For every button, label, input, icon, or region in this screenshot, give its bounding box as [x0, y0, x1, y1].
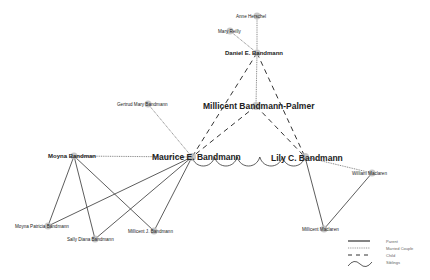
- node-label: Gertrud Mary Bandmann: [117, 102, 168, 107]
- node-mary[interactable]: Mary Reilly: [218, 28, 241, 35]
- edges-layer: [48, 16, 372, 239]
- node-daniel[interactable]: Daniel E. Bandmann: [225, 50, 283, 57]
- legend-parent-label: Parent: [386, 239, 399, 244]
- edge-parent: [154, 157, 192, 231]
- edge-married: [148, 104, 192, 157]
- edge-parent: [324, 173, 372, 229]
- node-moyna[interactable]: Moyna Bandman: [48, 153, 96, 160]
- edge-parent: [74, 156, 95, 239]
- node-label: Maurice E. Bandmann: [152, 152, 241, 162]
- edge-child: [256, 106, 305, 157]
- node-millicentbp[interactable]: Millicent Bandmann-Palmer: [203, 101, 315, 111]
- node-anne[interactable]: Anne Herschel: [236, 13, 266, 20]
- legend-siblings-label: Siblings: [386, 260, 400, 265]
- edge-married: [256, 53, 257, 106]
- edge-parent: [95, 157, 192, 239]
- node-label: Anne Herschel: [236, 14, 266, 19]
- legend-siblings-line: [348, 261, 372, 266]
- legend: Parent Married Couple Child Siblings: [348, 239, 414, 267]
- node-label: Millicent Bandmann-Palmer: [203, 101, 315, 111]
- node-millicentj[interactable]: Millicent J. Bandmann: [128, 228, 173, 235]
- legend-child-label: Child: [386, 253, 395, 258]
- node-label: William Maclaren: [352, 171, 387, 176]
- node-lily[interactable]: Lily C. Bandmann: [271, 153, 343, 163]
- node-william[interactable]: William Maclaren: [352, 170, 387, 177]
- node-gertrud[interactable]: Gertrud Mary Bandmann: [117, 101, 168, 108]
- node-maurice[interactable]: Maurice E. Bandmann: [152, 152, 241, 162]
- nodes-layer: Anne HerschelMary ReillyDaniel E. Bandma…: [15, 13, 387, 243]
- node-label: Moyna Bandman: [48, 153, 96, 159]
- node-label: Sally Diana Bandmann: [67, 237, 114, 242]
- node-label: Lily C. Bandmann: [271, 153, 343, 163]
- node-label: Mary Reilly: [218, 29, 241, 34]
- edge-child: [192, 106, 256, 157]
- node-moynap[interactable]: Moyna Patricia Bandmann: [15, 223, 69, 230]
- edge-parent: [305, 157, 324, 229]
- node-label: Millicent J. Bandmann: [128, 229, 173, 234]
- node-label: Millicent Maclaren: [302, 227, 339, 232]
- node-millicentm[interactable]: Millicent Maclaren: [302, 226, 339, 233]
- node-label: Daniel E. Bandmann: [225, 50, 283, 56]
- node-label: Moyna Patricia Bandmann: [15, 224, 69, 229]
- edge-parent: [74, 156, 154, 231]
- family-tree-diagram: Anne HerschelMary ReillyDaniel E. Bandma…: [0, 0, 430, 280]
- node-sally[interactable]: Sally Diana Bandmann: [67, 236, 114, 243]
- legend-married-label: Married Couple: [386, 246, 414, 251]
